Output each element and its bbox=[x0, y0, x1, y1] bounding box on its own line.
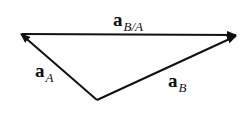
label-a-a-main: a bbox=[35, 60, 45, 81]
vector-a-b bbox=[97, 36, 236, 100]
label-a-b-main: a bbox=[168, 70, 178, 91]
label-a-b: aB bbox=[168, 71, 186, 90]
vector-a-b-over-a bbox=[22, 34, 236, 35]
vector-a-a bbox=[21, 34, 97, 100]
label-a-b-sub: B bbox=[179, 80, 187, 95]
label-a-b-over-a: aB/A bbox=[113, 10, 143, 29]
label-a-b-over-a-sub: B/A bbox=[124, 19, 144, 34]
vector-diagram: aB/A aA aB bbox=[0, 0, 252, 114]
label-a-b-over-a-main: a bbox=[113, 9, 123, 30]
label-a-a: aA bbox=[35, 61, 53, 80]
label-a-a-sub: A bbox=[46, 70, 54, 85]
